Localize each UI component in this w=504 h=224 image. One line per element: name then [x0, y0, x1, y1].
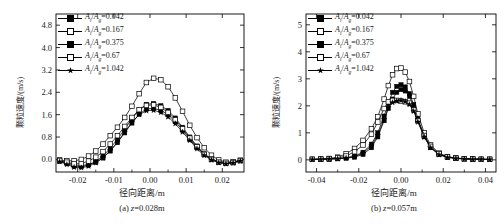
- legend-item-label: Ai/Ag=0.167: [85, 26, 124, 36]
- data-point-marker: [375, 120, 380, 125]
- legend-item: Ai/Ag=1.042: [58, 64, 124, 77]
- data-point-marker: [202, 145, 207, 150]
- data-point-marker: [144, 103, 149, 108]
- y-tick-label: 3.2: [41, 65, 52, 75]
- legend-item: Ai/Ag=0.042: [308, 12, 374, 25]
- legend-item: Ai/Ag=0.375: [58, 38, 124, 51]
- caption-a-prefix: (a): [119, 203, 128, 213]
- x-tick-label: 0.04: [478, 175, 494, 185]
- x-tick-label: -0.02: [69, 175, 87, 185]
- filled-square-marker-icon: [58, 39, 82, 50]
- filled-square-marker-icon: [308, 13, 332, 24]
- y-tick-label: 1: [298, 128, 302, 138]
- data-point-marker: [137, 91, 142, 96]
- data-point-marker: [187, 123, 192, 128]
- x-axis-label-a: 径向距离/m: [16, 186, 268, 199]
- data-point-marker: [115, 133, 120, 138]
- data-point-marker: [361, 138, 366, 143]
- data-point-marker: [382, 106, 387, 111]
- data-point-marker: [195, 135, 200, 140]
- legend-item: Ai/Ag=0.67: [308, 51, 374, 64]
- data-point-marker: [395, 90, 399, 94]
- y-tick-label: 0: [298, 155, 302, 165]
- data-point-marker: [403, 70, 408, 75]
- panel-b: -0.04-0.020.000.020.04012345 颗粒速度/(m/s) …: [252, 0, 504, 224]
- data-point-marker: [93, 155, 98, 160]
- data-line: [312, 85, 489, 160]
- y-tick-label: 2: [298, 101, 302, 111]
- legend-item-label: Ai/Ag=1.042: [335, 65, 374, 75]
- data-point-marker: [411, 94, 416, 99]
- x-tick-label: -0.04: [308, 175, 326, 185]
- y-tick-label: 3: [298, 74, 302, 84]
- open-square-marker-icon: [58, 26, 82, 37]
- data-point-marker: [86, 154, 91, 159]
- data-point-marker: [101, 149, 106, 154]
- data-point-marker: [122, 124, 127, 129]
- filled-star-marker-icon: [58, 65, 82, 76]
- x-tick-label: 0.01: [179, 175, 194, 185]
- data-line: [312, 100, 489, 159]
- legend-item: Ai/Ag=0.167: [58, 25, 124, 38]
- data-line: [312, 100, 489, 159]
- legend-item-label: Ai/Ag=0.375: [85, 39, 124, 49]
- filled-square-marker-icon: [58, 13, 82, 24]
- legend-item: Ai/Ag=1.042: [308, 64, 374, 77]
- y-axis-label-a: 颗粒速度/(m/s): [14, 77, 25, 128]
- caption-a-value: =0.028m: [134, 203, 165, 213]
- y-tick-label: 4: [298, 47, 303, 57]
- legend-item: Ai/Ag=0.375: [308, 38, 374, 51]
- legend-item: Ai/Ag=0.042: [58, 12, 124, 25]
- data-point-marker: [159, 105, 164, 110]
- data-line: [60, 78, 241, 162]
- x-tick-label: -0.01: [105, 175, 123, 185]
- data-point-marker: [159, 77, 164, 82]
- data-point-marker: [93, 149, 98, 154]
- open-square-marker-icon: [58, 52, 82, 63]
- panel-a: -0.02-0.010.000.010.020.00.81.62.43.24.0…: [0, 0, 252, 224]
- caption-b-prefix: (b): [371, 203, 381, 213]
- data-point-marker: [361, 143, 366, 148]
- legend-item-label: Ai/Ag=0.042: [335, 13, 374, 23]
- filled-star-marker-icon: [308, 65, 332, 76]
- series-group: [57, 76, 243, 170]
- data-point-marker: [115, 125, 120, 130]
- legend-item-label: Ai/Ag=0.042: [85, 13, 124, 23]
- legend-item-label: Ai/Ag=0.67: [335, 52, 370, 62]
- data-point-marker: [399, 88, 403, 92]
- data-point-marker: [412, 102, 416, 106]
- open-square-marker-icon: [308, 26, 332, 37]
- data-point-marker: [108, 142, 113, 147]
- legend-a: Ai/Ag=0.042Ai/Ag=0.167Ai/Ag=0.375Ai/Ag=0…: [58, 12, 124, 77]
- legend-item-label: Ai/Ag=1.042: [85, 65, 124, 75]
- y-axis-label-b: 颗粒速度/(m/s): [270, 77, 281, 128]
- data-line: [312, 68, 489, 159]
- data-point-marker: [403, 85, 407, 89]
- data-point-marker: [407, 79, 412, 84]
- y-tick-label: 0.8: [41, 132, 52, 142]
- x-tick-label: 0.02: [215, 175, 230, 185]
- legend-item: Ai/Ag=0.67: [58, 51, 124, 64]
- y-tick-label: 4.8: [41, 20, 52, 30]
- data-point-marker: [407, 92, 411, 96]
- legend-b: Ai/Ag=0.042Ai/Ag=0.167Ai/Ag=0.375Ai/Ag=0…: [308, 12, 374, 77]
- data-point-marker: [386, 83, 391, 88]
- data-point-marker: [122, 115, 127, 120]
- data-point-marker: [180, 109, 185, 114]
- data-point-marker: [151, 76, 156, 81]
- data-point-marker: [173, 96, 178, 101]
- legend-item-label: Ai/Ag=0.67: [85, 52, 120, 62]
- filled-square-marker-icon: [308, 39, 332, 50]
- legend-item-label: Ai/Ag=0.167: [335, 26, 374, 36]
- y-tick-label: 4.0: [41, 43, 52, 53]
- legend-item: Ai/Ag=0.167: [308, 25, 374, 38]
- y-tick-label: 0.0: [41, 154, 52, 164]
- data-point-marker: [144, 80, 149, 85]
- data-point-marker: [86, 159, 91, 164]
- data-point-marker: [130, 104, 135, 109]
- y-tick-label: 5: [298, 20, 302, 30]
- x-axis-label-b: 径向距离/m: [268, 186, 504, 199]
- figure-root: -0.02-0.010.000.010.020.00.81.62.43.24.0…: [0, 0, 504, 224]
- data-point-marker: [151, 103, 156, 108]
- series-group: [309, 66, 492, 162]
